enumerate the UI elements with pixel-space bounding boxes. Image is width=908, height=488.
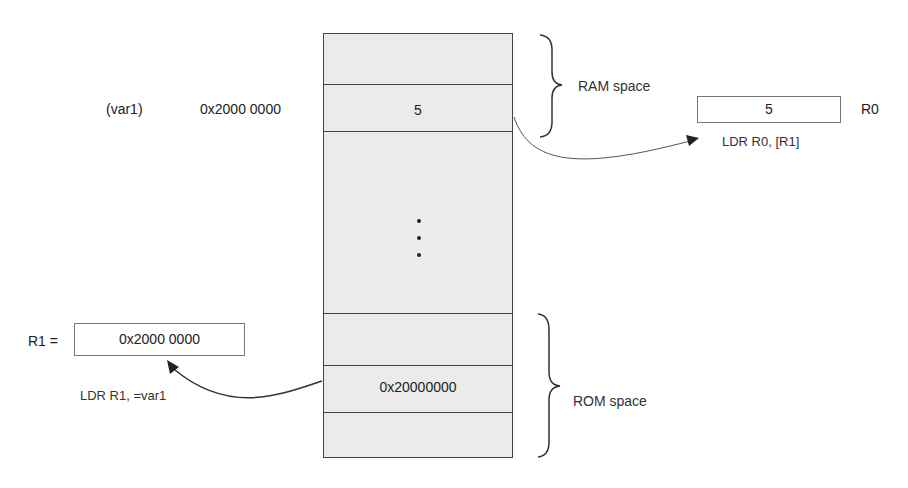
variable-name: (var1) [106, 101, 143, 117]
cell-divider [324, 412, 512, 413]
ellipsis-dot [417, 236, 421, 240]
rom-brace [538, 314, 560, 457]
register-r0-label: R0 [861, 101, 879, 117]
cell-divider [324, 84, 512, 85]
ram-space-label: RAM space [578, 78, 650, 94]
ram-brace [540, 35, 562, 137]
register-r0-box: 5 [697, 96, 841, 123]
ellipsis-dot [417, 219, 421, 223]
rom-space-label: ROM space [573, 393, 647, 409]
ellipsis-dot [417, 253, 421, 257]
arrow-to-r0 [514, 117, 690, 159]
memory-map: 5 0x20000000 [323, 33, 513, 458]
cell-divider [324, 365, 512, 366]
ldr-r0-instruction: LDR R0, [R1] [722, 134, 799, 149]
ram-cell-value: 5 [324, 102, 512, 118]
ldr-r1-instruction: LDR R1, =var1 [80, 388, 166, 403]
register-r1-box: 0x2000 0000 [74, 323, 245, 356]
register-r1-label: R1 = [28, 333, 58, 349]
cell-divider [324, 131, 512, 132]
arrow-to-r1 [175, 370, 322, 398]
variable-address: 0x2000 0000 [200, 101, 281, 117]
cell-divider [324, 313, 512, 314]
arrow-head-r0 [686, 135, 699, 146]
rom-cell-value: 0x20000000 [324, 379, 512, 395]
